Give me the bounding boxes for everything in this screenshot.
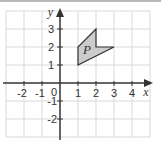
x-tick-label: 2: [93, 87, 99, 99]
y-tick-label: -1: [47, 95, 57, 107]
y-axis-arrow-icon: [56, 8, 64, 17]
y-tick-label: -2: [47, 113, 57, 125]
x-tick-label: -1: [35, 87, 45, 99]
x-tick-label: 1: [75, 87, 81, 99]
grid-lines: [6, 11, 150, 137]
y-axis-label: y: [47, 5, 54, 19]
x-tick-label: 4: [129, 87, 135, 99]
shape-label: P: [82, 42, 91, 57]
x-tick-label: 3: [111, 87, 117, 99]
x-tick-label: -2: [17, 87, 27, 99]
y-tick-label: 1: [48, 59, 54, 71]
y-tick-label: 3: [48, 23, 54, 35]
coordinate-grid-figure: -2 -1 0 1 2 3 4 x 3 2 1 -1 -2 y P: [0, 0, 161, 150]
y-tick-label: 2: [48, 41, 54, 53]
x-axis-label: x: [142, 85, 149, 99]
